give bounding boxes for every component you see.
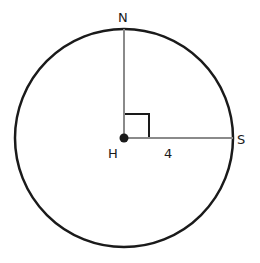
circle-diagram: N H S 4: [0, 0, 260, 263]
label-N: N: [118, 10, 128, 25]
label-S: S: [237, 132, 245, 147]
center-point-H: [120, 134, 129, 143]
label-length-4: 4: [164, 146, 172, 161]
label-H: H: [108, 146, 118, 161]
right-angle-marker: [125, 114, 149, 137]
